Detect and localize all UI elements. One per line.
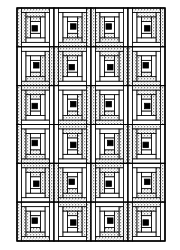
block-center (145, 26, 150, 31)
log-bottom (142, 72, 152, 77)
log-left (137, 211, 142, 232)
log-bottom (133, 120, 161, 125)
log-cabin-quilt (0, 0, 180, 250)
log-right (156, 168, 161, 198)
log-left (96, 207, 101, 237)
log-right (119, 207, 124, 237)
log-right (123, 125, 128, 164)
log-left (54, 125, 59, 164)
log-top (142, 17, 152, 22)
log-bottom (31, 150, 41, 155)
log-right (119, 13, 124, 43)
quilt-block (91, 125, 128, 164)
quilt-block (17, 163, 54, 202)
log-top (31, 172, 41, 177)
log-right (82, 207, 87, 237)
log-top (22, 163, 50, 168)
quilt-block (91, 86, 128, 125)
log-bottom (100, 77, 119, 82)
log-bottom (133, 198, 161, 203)
log-bottom (105, 150, 115, 155)
log-bottom (133, 236, 161, 241)
log-bottom (63, 77, 82, 82)
block-center (71, 220, 76, 225)
block-center (32, 103, 37, 108)
log-left (133, 129, 138, 159)
log-left (133, 13, 138, 43)
log-left (59, 129, 64, 159)
log-bottom (137, 38, 156, 43)
log-bottom (59, 159, 87, 164)
log-right (86, 163, 91, 202)
log-top (26, 90, 45, 95)
log-left (22, 129, 27, 159)
log-right (77, 95, 82, 116)
log-bottom (133, 159, 161, 164)
log-left (91, 86, 96, 125)
log-left (128, 163, 133, 202)
log-left (128, 47, 133, 86)
log-bottom (31, 189, 41, 194)
log-bottom (26, 115, 45, 120)
block-center (143, 63, 148, 68)
log-top (133, 86, 161, 91)
log-bottom (142, 227, 152, 232)
log-right (114, 17, 119, 38)
log-left (63, 134, 68, 155)
log-bottom (142, 150, 152, 155)
log-top (31, 17, 41, 22)
log-right (40, 56, 45, 77)
log-bottom (31, 111, 41, 116)
block-center (32, 26, 37, 31)
log-right (151, 56, 156, 77)
log-top (142, 56, 152, 61)
log-top (63, 90, 82, 95)
block-center (71, 24, 76, 29)
log-top (63, 168, 82, 173)
block-center (32, 218, 37, 223)
log-left (54, 86, 59, 125)
log-bottom (100, 115, 119, 120)
log-bottom (26, 232, 45, 237)
log-right (160, 202, 165, 241)
log-left (59, 90, 64, 120)
log-right (151, 17, 156, 38)
log-top (137, 90, 156, 95)
log-right (77, 134, 82, 155)
log-bottom (31, 72, 41, 77)
log-bottom (133, 81, 161, 86)
log-top (22, 86, 50, 91)
log-left (22, 207, 27, 237)
log-right (114, 56, 119, 77)
log-right (160, 86, 165, 125)
log-bottom (22, 42, 50, 47)
log-right (119, 168, 124, 198)
log-right (49, 86, 54, 125)
log-right (45, 168, 50, 198)
log-bottom (63, 115, 82, 120)
log-left (26, 172, 31, 193)
log-top (105, 172, 115, 177)
log-right (45, 129, 50, 159)
log-bottom (22, 120, 50, 125)
log-top (59, 125, 87, 130)
log-left (17, 202, 22, 241)
log-bottom (105, 227, 115, 232)
log-right (49, 47, 54, 86)
log-left (133, 207, 138, 237)
log-left (63, 95, 68, 116)
quilt-block (128, 8, 165, 47)
block-center (106, 101, 111, 106)
log-bottom (96, 159, 124, 164)
quilt-block (54, 86, 91, 125)
log-left (137, 95, 142, 116)
log-right (45, 51, 50, 81)
log-top (63, 207, 82, 212)
log-top (96, 163, 124, 168)
log-right (82, 13, 87, 43)
log-bottom (22, 236, 50, 241)
quilt-block (17, 125, 54, 164)
log-left (96, 51, 101, 81)
log-bottom (137, 77, 156, 82)
log-left (22, 51, 27, 81)
